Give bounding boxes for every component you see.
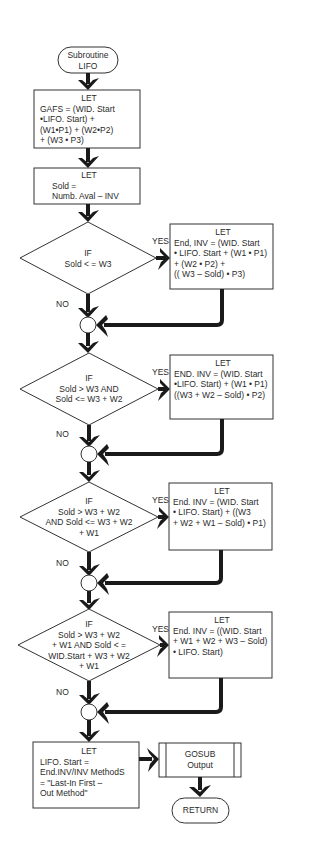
connector (105, 419, 222, 454)
text-line: LIFO. Start = (40, 757, 138, 768)
text-line: GAFS = (WID. Start (40, 104, 138, 115)
text-line: + (W3 • P3) (40, 135, 138, 146)
text-header: LET (173, 486, 271, 497)
yes-label: YES (152, 367, 169, 378)
text-header: LET (40, 746, 138, 757)
decision-2-text: IF Sold > W3 AND Sold <= W3 + W2 (39, 373, 139, 405)
text-line: Sold < = W3 (38, 259, 138, 270)
text-header: LET (173, 615, 271, 626)
text-line: + (W2 • P2) + (174, 259, 272, 270)
text-header: LET (174, 358, 272, 369)
junction-circle-3 (81, 575, 97, 591)
yes-label: YES (152, 236, 169, 247)
text-line: + W2 + W1 – Sold) • P1) (173, 518, 271, 529)
junction-circle-2 (81, 446, 97, 462)
start-terminal-label: Subroutine LIFO (58, 50, 118, 71)
process-box-lifo-start-text: LET LIFO. Start = End.INV/INV MethodS = … (40, 746, 138, 799)
text-line: + W1 (34, 528, 144, 539)
text-line: End.INV/INV MethodS (40, 767, 138, 778)
no-label: NO (56, 687, 69, 698)
text-line: • LIFO. Start) + ((W3 (173, 507, 271, 518)
text-line: AND Sold <= W3 + W2 (34, 517, 144, 528)
text-line: ((W3 + W2 – Sold) • P2) (174, 390, 272, 401)
text-header: LET (40, 170, 138, 181)
action-box-1-text: LET End, INV = (WID. Start • LIFO. Start… (174, 227, 272, 280)
text-line: END. INV = (WID. Start (174, 369, 272, 380)
action-box-2-text: LET END. INV = (WID. Start •LIFO. Start)… (174, 358, 272, 400)
text-line: •LIFO. Start) + (40, 114, 138, 125)
text-line: + W1 + W2 + W3 – Sold) (173, 636, 271, 647)
junction-circle-1 (80, 317, 96, 333)
process-box-gafs-text: LET GAFS = (WID. Start •LIFO. Start) + (… (40, 93, 138, 146)
connector (104, 289, 222, 325)
connector (105, 550, 221, 583)
decision-1-text: IF Sold < = W3 (38, 248, 138, 269)
text-line: Sold > W3 + W2 (34, 507, 144, 518)
yes-label: YES (152, 495, 169, 506)
text-line: End, INV = (WID. Start (174, 238, 272, 249)
no-label: NO (56, 299, 69, 310)
return-terminal-label: RETURN (172, 805, 229, 816)
text-header: LET (40, 93, 138, 104)
junction-circle-4 (81, 704, 97, 720)
action-box-4-text: LET End. INV = ((WID. Start + W1 + W2 + … (173, 615, 271, 657)
text-line: IF (38, 248, 138, 259)
text-line: • LIFO. Start) (173, 647, 271, 658)
text-header: LET (174, 227, 272, 238)
text-line: WID.Start + W3 + W2 (34, 651, 144, 662)
text-line: Numb. Aval – INV (40, 191, 138, 202)
text-line: = "Last-In First – (40, 778, 138, 789)
text-line: GOSUB (166, 749, 234, 760)
no-label: NO (56, 558, 69, 569)
process-box-sold-text: LET Sold = Numb. Aval – INV (40, 170, 138, 202)
text-line: + W1 AND Sold < = (34, 640, 144, 651)
text-line: Out Method" (40, 788, 138, 799)
text-line: End. INV = ((WID. Start (173, 626, 271, 637)
text-line: IF (39, 373, 139, 384)
decision-3-text: IF Sold > W3 + W2 AND Sold <= W3 + W2 + … (34, 496, 144, 538)
text-line: Sold = (40, 181, 138, 192)
gosub-box-text: GOSUB Output (166, 749, 234, 770)
text-line: + W1 (34, 661, 144, 672)
no-label: NO (56, 429, 69, 440)
text-line: LIFO (58, 61, 118, 72)
decision-4-text: IF Sold > W3 + W2 + W1 AND Sold < = WID.… (34, 619, 144, 672)
text-line: Output (166, 760, 234, 771)
text-line: • LIFO. Start + (W1 • P1) (174, 248, 272, 259)
text-line: (W1•P1) + (W2•P2) (40, 125, 138, 136)
yes-label: YES (152, 624, 169, 635)
connector (105, 678, 221, 712)
text-line: IF (34, 496, 144, 507)
text-line: •LIFO. Start) + (W1 • P1) (174, 379, 272, 390)
text-line: (( W3 – Sold) • P3) (174, 269, 272, 280)
text-line: Sold > W3 + W2 (34, 630, 144, 641)
text-line: Sold > W3 AND (39, 384, 139, 395)
text-line: Subroutine (58, 50, 118, 61)
text-line: IF (34, 619, 144, 630)
text-line: Sold <= W3 + W2 (39, 394, 139, 405)
text-line: End. INV = (WID. Start (173, 497, 271, 508)
action-box-3-text: LET End. INV = (WID. Start • LIFO. Start… (173, 486, 271, 528)
